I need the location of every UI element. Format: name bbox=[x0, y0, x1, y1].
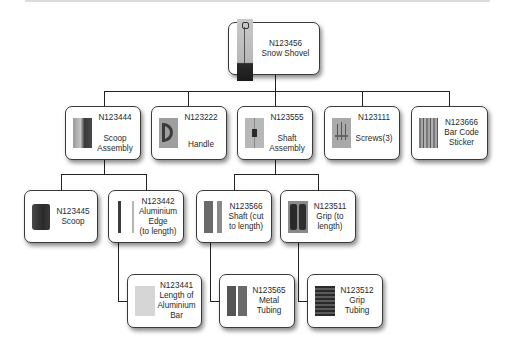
shaft-assembly-image bbox=[245, 118, 264, 148]
node-shaft[interactable]: N123566 Shaft (cut to length) bbox=[196, 190, 272, 243]
part-name: Aluminium bbox=[139, 207, 177, 217]
part-name: (to length) bbox=[140, 227, 177, 237]
connector bbox=[234, 174, 318, 175]
connector bbox=[118, 301, 127, 302]
connector bbox=[61, 174, 62, 190]
connector bbox=[298, 301, 307, 302]
grip-tubing-image bbox=[315, 286, 335, 316]
node-bar-code-sticker[interactable]: N123666 Bar Code Sticker bbox=[411, 106, 488, 160]
node-aluminium-bar[interactable]: N123441 Length of Aluminium Bar bbox=[127, 274, 202, 328]
metal-tubing-image bbox=[227, 286, 247, 316]
part-name: Grip bbox=[349, 296, 364, 306]
connector bbox=[104, 91, 105, 106]
connector bbox=[104, 91, 450, 92]
snow-shovel-image bbox=[237, 19, 253, 81]
part-name: Screws(3) bbox=[356, 134, 393, 144]
part-number: N123512 bbox=[340, 286, 373, 296]
scoop-image bbox=[32, 204, 50, 230]
node-metal-tubing[interactable]: N123565 Metal Tubing bbox=[219, 274, 295, 328]
node-aluminium-edge[interactable]: N123442 Aluminium Edge (to length) bbox=[108, 190, 184, 243]
top-rule bbox=[25, 0, 490, 2]
screws-image bbox=[332, 118, 351, 148]
node-snow-shovel[interactable]: N123456 Snow Shovel bbox=[228, 22, 320, 75]
part-name: Scoop bbox=[61, 217, 84, 227]
part-number: N123566 bbox=[229, 202, 262, 212]
part-name: Bar Code bbox=[444, 128, 479, 138]
part-name: Tubing bbox=[345, 306, 370, 316]
part-name: Handle bbox=[188, 140, 214, 150]
part-name: Grip (to bbox=[316, 212, 343, 222]
part-name: Sticker bbox=[449, 138, 474, 148]
connector bbox=[449, 91, 450, 106]
connector bbox=[210, 301, 219, 302]
connector bbox=[210, 243, 211, 301]
part-name: length) bbox=[317, 222, 342, 232]
part-number: N123555 bbox=[270, 113, 303, 123]
part-number: N123511 bbox=[314, 202, 347, 212]
connector bbox=[118, 243, 119, 301]
part-number: N123222 bbox=[184, 113, 217, 123]
connector bbox=[275, 91, 276, 106]
part-name: Metal bbox=[259, 296, 279, 306]
part-number: N123111 bbox=[358, 113, 390, 123]
part-name: Snow Shovel bbox=[262, 49, 310, 59]
part-name: Aluminium bbox=[157, 301, 195, 311]
connector bbox=[275, 75, 276, 91]
scoop-assembly-image bbox=[73, 118, 92, 148]
node-scoop-assembly[interactable]: N123444 ScoopAssembly bbox=[65, 106, 141, 160]
handle-image bbox=[159, 118, 178, 148]
node-grip[interactable]: N123511 Grip (to length) bbox=[280, 190, 356, 243]
part-name: Shaft (cut bbox=[228, 212, 263, 222]
bar-code-sticker-image bbox=[419, 118, 438, 148]
part-number: N123666 bbox=[445, 118, 478, 128]
shaft-image bbox=[204, 201, 224, 233]
connector bbox=[275, 160, 276, 174]
node-shaft-assembly[interactable]: N123555 ShaftAssembly bbox=[237, 106, 313, 160]
node-grip-tubing[interactable]: N123512 Grip Tubing bbox=[307, 274, 383, 328]
part-number: N123565 bbox=[252, 286, 285, 296]
part-name: to length) bbox=[229, 222, 263, 232]
connector bbox=[318, 174, 319, 190]
aluminium-bar-image bbox=[135, 286, 155, 316]
connector bbox=[298, 243, 299, 301]
connector bbox=[61, 174, 146, 175]
grip-image bbox=[288, 201, 308, 233]
part-name: Edge bbox=[148, 217, 167, 227]
connector bbox=[104, 160, 105, 174]
part-number: N123442 bbox=[141, 197, 174, 207]
part-number: N123456 bbox=[269, 39, 302, 49]
part-name: Tubing bbox=[257, 306, 282, 316]
part-name: Length of bbox=[159, 291, 193, 301]
connector bbox=[146, 174, 147, 190]
node-scoop[interactable]: N123445 Scoop bbox=[24, 190, 98, 243]
connector bbox=[362, 91, 363, 106]
connector bbox=[188, 91, 189, 106]
part-number: N123444 bbox=[98, 113, 131, 123]
connector bbox=[234, 174, 235, 190]
node-handle[interactable]: N123222 Handle bbox=[151, 106, 227, 160]
part-name: ScoopAssembly bbox=[97, 134, 133, 154]
aluminium-edge-image bbox=[116, 201, 135, 233]
part-number: N123445 bbox=[56, 207, 89, 217]
part-number: N123441 bbox=[160, 281, 193, 291]
part-name: Bar bbox=[170, 311, 183, 321]
node-screws[interactable]: N123111 Screws(3) bbox=[324, 106, 400, 160]
part-name: ShaftAssembly bbox=[269, 134, 305, 154]
